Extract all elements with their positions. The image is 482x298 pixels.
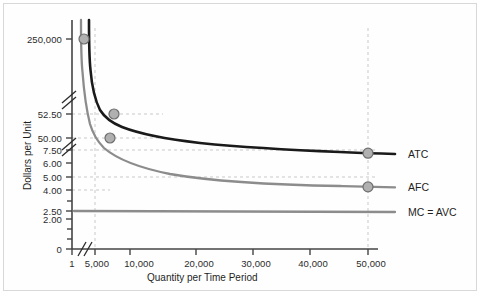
x-tick-label-30000: 30,000 [241,258,271,269]
x-tick-label-40000: 40,000 [298,258,328,269]
data-markers [79,34,373,192]
curve-atc [89,20,395,154]
gridlines [72,28,378,249]
y-tick-label-4-00: 4.00 [4,185,62,196]
marker-afc-5000-50-00 [105,133,115,143]
y-tick-label-0: 0 [4,244,62,255]
y-tick-label-52-50: 52.50 [4,109,62,120]
x-axis-title: Quantity per Time Period [147,272,258,283]
y-tick-label-6-00: 6.00 [4,158,62,169]
marker-afc-1-250000 [79,34,89,44]
curve-label-mc-avc: MC = AVC [408,206,457,218]
axes [72,20,378,249]
curve-afc [81,20,395,187]
curve-label-atc: ATC [408,148,428,160]
y-tick-label-50-00: 50.00 [4,133,62,144]
y-axis-break-lower-icon [62,138,76,156]
y-tick-label-250000: 250,000 [4,34,62,45]
y-tick-label-7-50: 7.50 [4,145,62,156]
curve-label-afc: AFC [408,181,429,193]
x-axis-ticks [72,249,368,255]
y-tick-label-2-00: 2.00 [4,214,62,225]
marker-afc-50000-5-00 [363,182,373,192]
x-tick-label-20000: 20,000 [184,258,214,269]
x-tick-label-1: 1 [69,258,74,269]
x-tick-label-10000: 10,000 [124,258,154,269]
x-tick-label-50000: 50,000 [356,258,386,269]
marker-atc-5000-52-50 [109,109,119,119]
marker-atc-50000-6-00 [363,148,373,158]
y-tick-label-5-00: 5.00 [4,172,62,183]
figure-container: 250,000 52.50 50.00 7.50 6.00 5.00 4.00 … [0,0,482,298]
y-axis-break-upper-icon [62,91,76,109]
curve-mc-avc [74,211,395,212]
y-axis-title: Dollars per Unit [22,121,33,190]
x-tick-label-5000: 5,000 [85,258,109,269]
